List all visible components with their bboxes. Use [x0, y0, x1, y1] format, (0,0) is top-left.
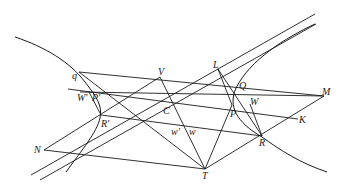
label-M: M [321, 86, 331, 97]
line-R-prime-R [101, 115, 262, 136]
label-L: L [212, 59, 219, 70]
line-q-T [79, 72, 205, 169]
label-Q: Q [239, 80, 247, 91]
label-N: N [33, 144, 42, 155]
label-w-prime: w' [171, 126, 181, 137]
label-q: q [72, 70, 77, 81]
label-P: P [229, 108, 236, 119]
geometry-figure: q V L Q M W' P' C P W K R' w' w R N T [0, 0, 349, 193]
line-P-T [205, 105, 232, 169]
label-R: R [258, 137, 265, 148]
label-W: W [250, 96, 260, 107]
hyperbola-right-branch [233, 24, 327, 172]
label-W-prime: W' [77, 92, 88, 103]
line-N-V [44, 77, 160, 150]
line-T-M [205, 96, 324, 169]
label-T: T [202, 170, 209, 181]
label-V: V [158, 66, 166, 77]
label-P-prime: P' [91, 92, 101, 103]
label-K: K [298, 114, 307, 125]
label-R-prime: R' [100, 118, 110, 129]
line-N-T [44, 150, 205, 169]
asymptote-upper [31, 14, 315, 175]
label-w: w [189, 126, 196, 137]
label-C: C [163, 105, 170, 116]
